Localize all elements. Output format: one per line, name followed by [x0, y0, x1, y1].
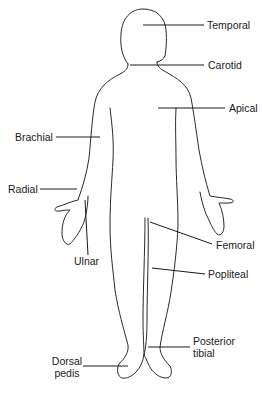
label-posterior-tibial-line1: Posterior [193, 335, 235, 347]
label-posterior-tibial-line2: tibial [193, 347, 235, 359]
label-popliteal: Popliteal [208, 268, 248, 280]
pulse-points-diagram: Temporal Carotid Apical Brachial Radial … [0, 0, 262, 393]
label-apical: Apical [229, 102, 258, 114]
label-ulnar: Ulnar [74, 255, 99, 267]
leader-lines [40, 25, 225, 366]
body-outline [55, 9, 233, 378]
leader-popliteal [152, 268, 205, 274]
label-brachial: Brachial [15, 131, 53, 143]
label-temporal: Temporal [207, 19, 250, 31]
label-posterior-tibial: Posterior tibial [193, 335, 235, 359]
label-radial: Radial [8, 183, 38, 195]
label-carotid: Carotid [208, 59, 242, 71]
label-dorsal-pedis: Dorsal pedis [50, 355, 84, 379]
label-dorsal-pedis-line2: pedis [50, 367, 84, 379]
label-femoral: Femoral [216, 239, 255, 251]
leader-femoral [150, 222, 212, 244]
label-dorsal-pedis-line1: Dorsal [50, 355, 84, 367]
